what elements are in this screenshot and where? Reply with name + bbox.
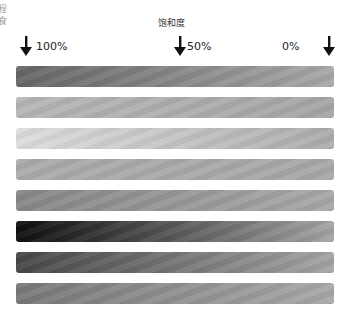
gradient-bar	[16, 283, 334, 304]
saturation-title: 饱和度	[0, 16, 343, 29]
arrow-down-icon	[323, 36, 335, 56]
arrow-down-icon	[174, 36, 186, 56]
gradient-bar	[16, 128, 334, 149]
marker-label: 0%	[282, 40, 299, 53]
marker-50: 50%	[174, 35, 211, 57]
marker-end	[323, 35, 335, 57]
saturation-bars	[16, 66, 334, 314]
marker-label: 50%	[187, 40, 211, 53]
marker-100: 100%	[20, 35, 67, 57]
marker-0: 0%	[278, 35, 299, 57]
gradient-bar	[16, 190, 334, 211]
gradient-bar	[16, 252, 334, 273]
gradient-bar	[16, 66, 334, 87]
marker-label: 100%	[36, 40, 67, 53]
arrow-down-icon	[20, 36, 32, 56]
gradient-bar	[16, 221, 334, 242]
gradient-bar	[16, 159, 334, 180]
gradient-bar	[16, 97, 334, 118]
